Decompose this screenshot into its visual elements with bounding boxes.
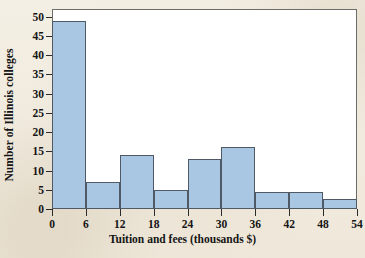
x-tick-label: 0 xyxy=(49,218,55,230)
y-tick-label: 20 xyxy=(33,126,45,138)
y-tick-label: 40 xyxy=(33,49,45,61)
y-tick-mark xyxy=(46,94,52,95)
x-tick-mark xyxy=(255,209,256,216)
y-tick-label: 50 xyxy=(33,11,45,23)
x-tick-mark xyxy=(188,209,189,216)
y-tick-mark xyxy=(46,151,52,152)
plot-area: 05101520253035404550 061218243036424854 xyxy=(52,9,357,209)
histogram-bar xyxy=(86,182,120,209)
y-axis-title: Number of Illinois colleges xyxy=(0,0,20,230)
y-tick-mark xyxy=(46,113,52,114)
histogram-bar xyxy=(188,159,222,209)
histogram-bar xyxy=(255,192,289,209)
x-tick-label: 36 xyxy=(250,218,262,230)
y-tick-mark xyxy=(46,74,52,75)
histogram-bar xyxy=(52,21,86,209)
x-tick-mark xyxy=(221,209,222,216)
x-tick-mark xyxy=(323,209,324,216)
histogram-bar xyxy=(154,190,188,209)
histogram-bar xyxy=(289,192,323,209)
y-tick-mark xyxy=(46,55,52,56)
histogram-bar xyxy=(120,155,154,209)
x-tick-label: 54 xyxy=(351,218,363,230)
y-tick-label: 45 xyxy=(33,30,45,42)
y-tick-mark xyxy=(46,171,52,172)
y-tick-mark xyxy=(46,132,52,133)
y-tick-label: 15 xyxy=(33,145,45,157)
x-tick-mark xyxy=(120,209,121,216)
y-tick-label: 35 xyxy=(33,68,45,80)
x-tick-label: 18 xyxy=(148,218,160,230)
y-tick-label: 5 xyxy=(38,184,44,196)
x-tick-mark xyxy=(289,209,290,216)
y-tick-mark xyxy=(46,190,52,191)
y-tick-label: 10 xyxy=(33,165,45,177)
x-tick-label: 48 xyxy=(317,218,329,230)
y-axis-title-text: Number of Illinois colleges xyxy=(3,48,15,181)
x-tick-mark xyxy=(86,209,87,216)
y-tick-mark xyxy=(46,36,52,37)
x-tick-mark xyxy=(52,209,53,216)
y-tick-label: 25 xyxy=(33,107,45,119)
y-tick-mark xyxy=(46,17,52,18)
x-axis-title: Tuition and fees (thousands $) xyxy=(0,233,365,245)
y-tick-label: 30 xyxy=(33,88,45,100)
x-tick-label: 42 xyxy=(283,218,295,230)
histogram-figure: Number of Illinois colleges 051015202530… xyxy=(0,0,365,258)
x-tick-label: 24 xyxy=(182,218,194,230)
x-tick-label: 12 xyxy=(114,218,126,230)
x-tick-label: 30 xyxy=(216,218,228,230)
histogram-bar xyxy=(221,147,255,209)
x-tick-mark xyxy=(357,209,358,216)
histogram-bar xyxy=(323,199,357,209)
x-tick-mark xyxy=(154,209,155,216)
y-tick-label: 0 xyxy=(38,203,44,215)
x-tick-label: 6 xyxy=(83,218,89,230)
